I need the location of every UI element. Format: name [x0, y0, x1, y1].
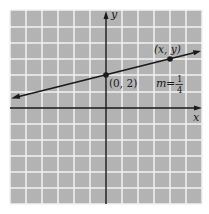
point-x-y-label: (x, y): [154, 43, 181, 55]
point-y-intercept-label: (0, 2): [109, 77, 137, 89]
coordinate-graph: y x (0, 2) (x, y) m = 1 4: [0, 0, 209, 214]
slope-numerator: 1: [177, 74, 182, 84]
x-axis-label: x: [193, 111, 200, 124]
slope-m: m: [156, 77, 166, 90]
slope-denominator: 4: [177, 85, 182, 95]
point-x-y: [167, 56, 173, 62]
slope-equals: =: [166, 77, 175, 90]
y-axis-label: y: [110, 8, 118, 21]
point-y-intercept: [103, 72, 109, 78]
